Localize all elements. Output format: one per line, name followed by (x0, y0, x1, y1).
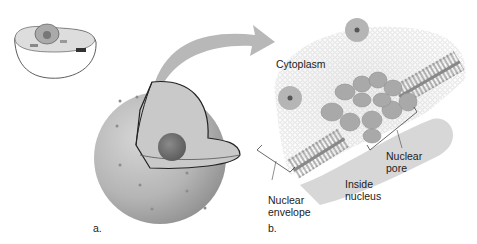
panel-b-label: b. (268, 222, 277, 234)
zoom-arrow (155, 25, 275, 84)
nuclear-envelope-closeup (257, 18, 466, 205)
inside-nucleus-label-line1: Inside (345, 178, 373, 190)
protein-rosette-top (345, 18, 369, 42)
cell-thumbnail (15, 24, 96, 78)
nuclear-envelope-label-line2: envelope (268, 206, 311, 218)
nucleus-cutaway (94, 82, 240, 224)
protein-rosette-left (278, 86, 302, 110)
nucleus-diagram (0, 0, 477, 244)
nuclear-pore-label-line1: Nuclear (386, 150, 422, 162)
nuclear-envelope-label-line1: Nuclear (268, 194, 304, 206)
panel-a-label: a. (93, 222, 102, 234)
inside-nucleus-label-line2: nucleus (345, 190, 381, 202)
nuclear-pore-label-line2: pore (386, 162, 407, 174)
cytoplasm-label: Cytoplasm (276, 58, 326, 70)
